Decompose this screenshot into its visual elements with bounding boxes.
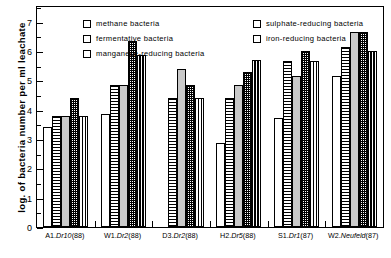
bar bbox=[52, 116, 61, 227]
bar bbox=[216, 143, 225, 227]
x-axis-tick-label: W1.Dr2(88) bbox=[104, 231, 141, 240]
legend-label: fermentative bacteria bbox=[96, 34, 173, 43]
bar bbox=[292, 76, 301, 227]
bar bbox=[301, 51, 310, 227]
x-axis-tick-label: D3.Dr2(88) bbox=[162, 231, 198, 240]
legend-swatch-icon bbox=[83, 50, 91, 58]
x-axis-tick-labels: A1.Dr10(88)W1.Dr2(88)D3.Dr2(88)H2.Dr5(88… bbox=[36, 231, 384, 245]
legend-swatch-icon bbox=[83, 35, 91, 43]
bar bbox=[234, 85, 243, 227]
x-axis-tick bbox=[210, 221, 211, 227]
bar bbox=[368, 51, 377, 227]
bar bbox=[177, 69, 186, 227]
y-axis-tick-label: 3 bbox=[6, 136, 32, 145]
bar bbox=[137, 55, 146, 227]
bar bbox=[341, 47, 350, 227]
bar bbox=[61, 116, 70, 227]
bar bbox=[310, 61, 319, 227]
legend-label: sulphate-reducing bacteria bbox=[266, 19, 363, 28]
bar bbox=[359, 32, 368, 227]
legend-swatch-icon bbox=[253, 35, 261, 43]
bar-chart-figure: log. of bacteria number per ml leachate … bbox=[0, 0, 391, 258]
x-axis-tick bbox=[95, 221, 96, 227]
bar bbox=[186, 85, 195, 227]
legend-label: methane bacteria bbox=[96, 19, 159, 28]
legend-swatch-icon bbox=[253, 20, 261, 28]
legend-item: fermentative bacteria bbox=[83, 34, 173, 43]
legend-item: sulphate-reducing bacteria bbox=[253, 19, 363, 28]
legend-item: manganese-reducing bacteria bbox=[83, 49, 205, 58]
bar bbox=[43, 127, 52, 227]
y-axis-tick-label: 7 bbox=[6, 19, 32, 28]
y-axis-tick-labels: 01234567 bbox=[4, 6, 32, 228]
x-axis-tick bbox=[268, 221, 269, 227]
bar bbox=[110, 85, 119, 227]
bar bbox=[225, 98, 234, 227]
legend-item: iron-reducing bacteria bbox=[253, 34, 346, 43]
y-axis-tick-label: 1 bbox=[6, 195, 32, 204]
bar bbox=[101, 114, 110, 227]
legend-label: manganese-reducing bacteria bbox=[96, 49, 205, 58]
bar bbox=[70, 98, 79, 227]
chart-legend: methane bacteriasulphate-reducing bacter… bbox=[83, 19, 383, 61]
y-axis-tick bbox=[37, 228, 43, 229]
x-axis-tick bbox=[152, 221, 153, 227]
x-axis-tick-label: A1.Dr10(88) bbox=[45, 231, 84, 240]
bar bbox=[274, 118, 283, 227]
bar bbox=[332, 76, 341, 227]
bar bbox=[128, 41, 137, 227]
y-axis-tick-label: 5 bbox=[6, 77, 32, 86]
bar bbox=[195, 98, 204, 227]
bar bbox=[79, 116, 88, 227]
bar bbox=[252, 60, 261, 227]
plot-area: methane bacteriasulphate-reducing bacter… bbox=[36, 6, 384, 228]
x-axis-tick-label: S1.Dr1(87) bbox=[278, 231, 313, 240]
x-axis-tick-label: W2.Neufeld(87) bbox=[328, 231, 378, 240]
y-axis-tick-label: 6 bbox=[6, 48, 32, 57]
legend-label: iron-reducing bacteria bbox=[266, 34, 346, 43]
y-axis-tick-label: 4 bbox=[6, 107, 32, 116]
bar bbox=[283, 61, 292, 227]
legend-item: methane bacteria bbox=[83, 19, 159, 28]
bar bbox=[119, 85, 128, 227]
y-axis-tick-label: 0 bbox=[6, 224, 32, 233]
bar bbox=[168, 98, 177, 227]
bar bbox=[243, 72, 252, 227]
x-axis-tick-label: H2.Dr5(88) bbox=[220, 231, 256, 240]
legend-swatch-icon bbox=[83, 20, 91, 28]
y-axis-tick-label: 2 bbox=[6, 165, 32, 174]
x-axis-tick bbox=[325, 221, 326, 227]
bar bbox=[350, 32, 359, 227]
